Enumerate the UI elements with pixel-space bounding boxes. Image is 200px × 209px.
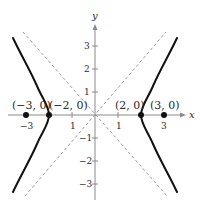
point-pos3-0 — [161, 112, 167, 118]
y-axis-arrow-icon — [93, 24, 98, 30]
x-axis-label: x — [189, 109, 195, 120]
axes — [8, 27, 183, 200]
x-axis-arrow-icon — [180, 113, 186, 118]
point-neg3-0 — [23, 112, 29, 118]
label-point-pos2: (2, 0) — [115, 99, 145, 112]
label-point-pos3: (3, 0) — [150, 99, 180, 112]
y-tick-label-1: 1 — [84, 87, 90, 97]
x-tick-label-neg3: −3 — [20, 121, 34, 131]
point-pos2-0 — [138, 112, 144, 118]
x-tick-label-pos3: 3 — [161, 121, 167, 131]
point-neg2-0 — [46, 112, 52, 118]
y-tick-label-2: 2 — [84, 64, 90, 74]
y-axis-label: y — [91, 10, 98, 21]
y-tick-label-3: 3 — [84, 41, 90, 51]
hyperbola-graph: (−3, 0) (−2, 0) (2, 0) (3, 0) −3 1 1 3 3… — [0, 0, 200, 209]
x-tick-label-neg1: 1 — [70, 121, 76, 131]
label-point-neg2: (−2, 0) — [49, 99, 88, 112]
x-tick-label-pos1: 1 — [116, 121, 122, 131]
y-tick-label-neg3: −3 — [79, 179, 93, 189]
y-tick-label-neg2: −2 — [79, 156, 92, 166]
label-point-neg3: (−3, 0) — [12, 99, 51, 112]
y-tick-label-neg1: −1 — [79, 133, 92, 143]
